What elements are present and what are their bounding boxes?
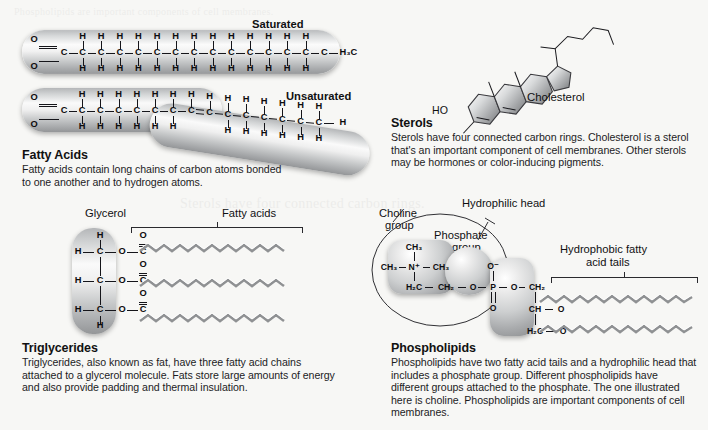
c-h-bond-bottom	[119, 116, 120, 124]
tails-label-line2: acid tails	[586, 256, 630, 268]
saturated-molecule: OOCCHHCHHCHHCHHCHHCHHCHHCHHCHHCHHCHHCHHC…	[22, 30, 340, 74]
c-c-bond	[69, 53, 78, 54]
glycerol-cap-bond-bottom	[100, 316, 101, 324]
c-h-bond-bottom	[137, 116, 138, 124]
c-h-bond-top	[100, 99, 101, 107]
c-h-bond-top	[306, 41, 307, 49]
tail-1	[540, 294, 692, 302]
carbon-atom: C	[321, 48, 328, 57]
carbon-atom: C	[116, 48, 123, 57]
p-o-double-a	[491, 292, 492, 303]
phosphorus-atom: P	[490, 283, 496, 292]
o-c-bond	[127, 310, 138, 311]
c-h-bond-bottom	[176, 58, 177, 66]
sterols-body: Sterols have four connected carbon rings…	[391, 131, 696, 169]
c-c-bond	[143, 53, 152, 54]
c-c-backbone-bond	[100, 286, 101, 305]
phospholipids-heading: Phospholipids	[391, 341, 476, 355]
tail-3	[140, 313, 284, 321]
c-h-bond-top	[82, 99, 83, 107]
terminal-bond	[324, 123, 334, 124]
phosphate-oxygen-right: O	[511, 283, 518, 292]
h-c-bond	[83, 281, 94, 282]
triglycerides-body: Triglycerides, also known as fat, have t…	[22, 356, 342, 394]
c-h-bond-top	[282, 108, 283, 116]
carbon-atom: C	[279, 115, 286, 124]
c-h-bond-top	[157, 41, 158, 49]
cholesterol-label: Cholesterol	[527, 91, 585, 103]
unsaturated-molecule: OOCCHHCHHCHHCHHCHHCHHCHCHCHHCHHCHHCHHCHH…	[22, 88, 372, 148]
terminal-hydrogen: H	[339, 119, 346, 128]
carbon-atom: C	[61, 106, 68, 115]
p-o-bond-right	[499, 287, 507, 288]
tail-2	[540, 324, 692, 332]
carboxyl-single-bond	[39, 119, 59, 120]
hydroxyl-label: HO	[432, 104, 448, 116]
n-methyl-bond-right	[423, 267, 430, 268]
glycerol-carbon: C	[97, 276, 104, 285]
c-h-bond-top	[319, 111, 320, 119]
carbon-atom: C	[284, 48, 291, 57]
carbon-atom: C	[115, 106, 122, 115]
triglycerides-heading: Triglycerides	[22, 341, 98, 355]
carbon-atom: C	[98, 48, 105, 57]
phospholipids-body: Phospholipids have two fatty acid tails …	[391, 356, 697, 419]
carbon-atom: C	[302, 48, 309, 57]
c-h-bond-bottom	[83, 58, 84, 66]
c-h-bond-bottom	[231, 58, 232, 66]
carboxyl-oxygen-top: O	[30, 93, 37, 102]
carbon-atom: C	[97, 106, 104, 115]
carboxyl-oxygen-bottom: O	[30, 120, 37, 129]
carbon-atom: C	[315, 119, 322, 128]
c-c-bond	[178, 111, 186, 112]
carbon-atom: C	[79, 48, 86, 57]
c-h-bond-top	[287, 41, 288, 49]
c-c-bond	[215, 113, 223, 115]
c-h-bond-top	[210, 101, 211, 109]
h-c-bond	[83, 252, 94, 253]
c-c-bond	[269, 118, 277, 120]
ester-oxygen: O	[118, 305, 125, 314]
c-h-bond-bottom	[250, 58, 251, 66]
c-c-bond	[162, 53, 171, 54]
c-h-bond-bottom	[228, 120, 229, 128]
c-h-bond-top	[176, 41, 177, 49]
c-h-bond-top	[246, 104, 247, 112]
c-double-bond-a	[196, 109, 204, 111]
choline-methyl-right: CH₃	[433, 263, 449, 272]
c-c-bond	[87, 111, 95, 112]
sterols-heading: Sterols	[391, 116, 433, 130]
c-c-bond	[181, 53, 190, 54]
fatty-acids-body: Fatty acids contain long chains of carbo…	[22, 163, 284, 188]
c-h-bond-bottom	[319, 128, 320, 136]
carbon-atom: C	[243, 112, 250, 121]
c-h-bond-top	[101, 41, 102, 49]
glycerol-hydrogen: H	[75, 305, 82, 314]
c-o-bond	[105, 252, 116, 253]
c-h-bond-top	[138, 41, 139, 49]
ester-oxygen: O	[118, 276, 125, 285]
cholesterol-structure	[440, 12, 690, 127]
c-h-bond-top	[137, 99, 138, 107]
glycerol-bond-1	[535, 292, 536, 303]
c-h-bond-top	[250, 41, 251, 49]
o-c-bond	[127, 281, 138, 282]
c-c-bond	[255, 53, 264, 54]
c-o-bond	[105, 281, 116, 282]
c-h-bond-bottom	[264, 123, 265, 131]
carbon-atom: C	[209, 48, 216, 57]
h-c-bond	[83, 310, 94, 311]
ghost-text-top: Phospholipids are important components o…	[14, 6, 274, 17]
triglyceride-tails	[140, 238, 320, 348]
c-o-bond	[105, 310, 116, 311]
c-double-bond-b	[196, 113, 204, 115]
c-h-bond-bottom	[194, 58, 195, 66]
carbon-atom: C	[154, 48, 161, 57]
c-h-bond-top	[213, 41, 214, 49]
n-methyl-bond-top	[414, 252, 415, 261]
glycerol-bond-2	[535, 314, 536, 325]
choline-methyl-top: CH₃	[406, 243, 422, 252]
c-h-bond-bottom	[157, 58, 158, 66]
glycerol-hydrogen: H	[75, 276, 82, 285]
c-h-bond-top	[194, 41, 195, 49]
